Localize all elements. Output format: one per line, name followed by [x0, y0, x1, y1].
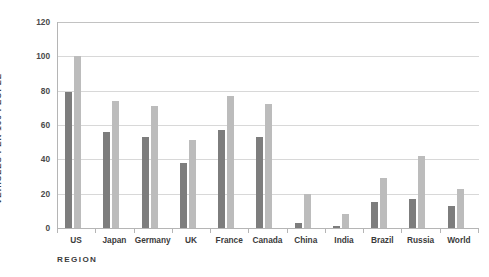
- plot-area: [57, 22, 479, 228]
- x-tick: [95, 229, 96, 233]
- category-label-japan: Japan: [102, 235, 126, 245]
- category-label-us: US: [70, 235, 82, 245]
- bar-group: [58, 22, 96, 228]
- bar-group: [211, 22, 249, 228]
- bar-group: [364, 22, 402, 228]
- category-label-brazil: Brazil: [371, 235, 394, 245]
- bar-france-series-dark: [218, 130, 225, 228]
- x-axis-title: REGION: [57, 255, 97, 264]
- bar-canada-series-dark: [256, 137, 263, 228]
- x-tick: [401, 229, 402, 233]
- bar-us-series-dark: [65, 92, 72, 228]
- bar-chart: VEHICLES PER 100 PEOPLE 020406080100120 …: [0, 0, 489, 277]
- x-tick: [325, 229, 326, 233]
- y-axis-title-text: VEHICLES PER 100 PEOPLE: [0, 73, 3, 204]
- bar-uk-series-dark: [180, 163, 187, 228]
- x-tick: [248, 229, 249, 233]
- category-label-canada: Canada: [253, 235, 283, 245]
- x-tick: [134, 229, 135, 233]
- x-tick: [363, 229, 364, 233]
- bar-group: [173, 22, 211, 228]
- x-tick: [57, 229, 58, 233]
- bar-france-series-light: [227, 96, 234, 228]
- bar-china-series-light: [304, 194, 311, 228]
- bar-group: [249, 22, 287, 228]
- bar-group: [96, 22, 134, 228]
- category-label-india: India: [334, 235, 353, 245]
- y-tick-label-40: 40: [12, 154, 50, 164]
- x-tick: [478, 229, 479, 233]
- x-tick: [172, 229, 173, 233]
- y-tick-label-100: 100: [12, 51, 50, 61]
- bar-group: [441, 22, 479, 228]
- category-label-germany: Germany: [135, 235, 171, 245]
- x-tick: [440, 229, 441, 233]
- category-label-russia: Russia: [407, 235, 434, 245]
- bar-india-series-light: [342, 214, 349, 228]
- category-label-china: China: [294, 235, 317, 245]
- bar-japan-series-light: [112, 101, 119, 228]
- y-axis-title: VEHICLES PER 100 PEOPLE: [0, 0, 16, 277]
- y-tick-label-60: 60: [12, 120, 50, 130]
- category-label-france: France: [216, 235, 243, 245]
- bar-group: [326, 22, 364, 228]
- bar-group: [135, 22, 173, 228]
- bar-group: [288, 22, 326, 228]
- bar-group: [402, 22, 440, 228]
- bar-canada-series-light: [265, 104, 272, 228]
- bar-world-series-light: [457, 189, 464, 228]
- bar-germany-series-light: [151, 106, 158, 228]
- bar-brazil-series-dark: [371, 202, 378, 228]
- x-tick: [287, 229, 288, 233]
- y-tick-label-120: 120: [12, 17, 50, 27]
- category-label-world: World: [447, 235, 470, 245]
- bar-germany-series-dark: [142, 137, 149, 228]
- bar-brazil-series-light: [380, 178, 387, 228]
- x-tick: [210, 229, 211, 233]
- bar-russia-series-light: [418, 156, 425, 228]
- bar-world-series-dark: [448, 206, 455, 228]
- y-tick-label-0: 0: [12, 223, 50, 233]
- y-tick-label-20: 20: [12, 189, 50, 199]
- bar-us-series-light: [74, 56, 81, 228]
- bar-russia-series-dark: [409, 199, 416, 228]
- x-axis-line: [57, 228, 479, 229]
- y-tick-label-80: 80: [12, 86, 50, 96]
- bar-uk-series-light: [189, 140, 196, 228]
- category-label-uk: UK: [185, 235, 197, 245]
- bar-japan-series-dark: [103, 132, 110, 228]
